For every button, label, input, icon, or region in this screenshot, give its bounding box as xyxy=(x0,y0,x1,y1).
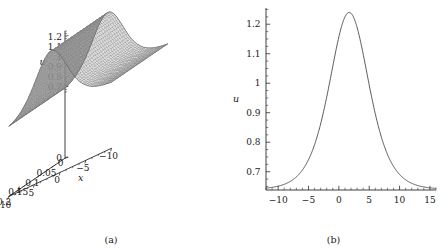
svg-text:5: 5 xyxy=(366,195,372,205)
svg-text:1.1: 1.1 xyxy=(246,49,260,59)
svg-text:−5: −5 xyxy=(302,195,316,205)
panel-b-line-plot: −10−50510150.70.80.911.11.2xu (b) xyxy=(222,0,445,248)
svg-text:10: 10 xyxy=(394,195,406,205)
svg-text:0.1: 0.1 xyxy=(25,178,39,188)
svg-text:−10: −10 xyxy=(269,195,288,205)
svg-text:15: 15 xyxy=(424,195,436,205)
panel-b-caption: (b) xyxy=(222,234,445,245)
line-plot-svg: −10−50510150.70.80.911.11.2xu xyxy=(222,0,445,215)
panel-a-caption: (a) xyxy=(0,234,222,245)
svg-text:1.2: 1.2 xyxy=(48,32,62,42)
svg-text:0: 0 xyxy=(336,195,342,205)
panel-a-surface-plot: 00.70.80.911.11.2u00.050.10.150.2t−10−50… xyxy=(0,0,222,248)
svg-text:u: u xyxy=(233,93,239,104)
svg-text:t: t xyxy=(17,184,21,195)
svg-text:10: 10 xyxy=(0,200,12,210)
svg-text:1: 1 xyxy=(255,78,261,88)
svg-text:x: x xyxy=(78,172,84,183)
svg-text:0.9: 0.9 xyxy=(246,108,261,118)
svg-text:0: 0 xyxy=(54,175,60,185)
svg-text:0.7: 0.7 xyxy=(246,167,261,177)
svg-text:5: 5 xyxy=(28,188,34,198)
svg-text:1.2: 1.2 xyxy=(246,19,260,29)
figure-container: 00.70.80.911.11.2u00.050.10.150.2t−10−50… xyxy=(0,0,445,248)
svg-text:0.8: 0.8 xyxy=(246,137,261,147)
surface-plot-svg: 00.70.80.911.11.2u00.050.10.150.2t−10−50… xyxy=(0,0,222,215)
svg-text:−10: −10 xyxy=(99,151,118,161)
